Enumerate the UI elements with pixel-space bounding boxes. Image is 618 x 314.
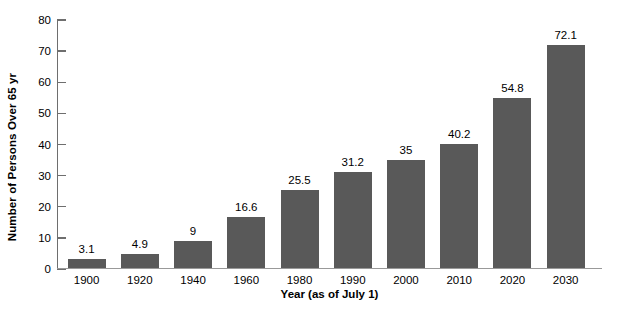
- y-axis-tick-label-wrap: 50: [8, 107, 51, 119]
- y-axis-tick-label-wrap: 60: [8, 76, 51, 88]
- bar-slot: 4.9: [113, 20, 166, 269]
- bar-slot: 3.1: [60, 20, 113, 269]
- bar-value-label: 31.2: [342, 156, 364, 168]
- bar-slot: 54.8: [486, 20, 539, 269]
- bar-slot: 25.5: [273, 20, 326, 269]
- bar[interactable]: [440, 144, 478, 269]
- y-axis-tick-label-wrap: 80: [8, 14, 51, 26]
- x-axis-line: [57, 268, 602, 269]
- bar-value-label: 16.6: [235, 201, 257, 213]
- bar-slot: 31.2: [326, 20, 379, 269]
- bar-value-label: 54.8: [501, 82, 523, 94]
- y-axis-tick-label: 40: [8, 139, 51, 151]
- y-axis-tick-label-wrap: 0: [8, 263, 51, 275]
- bar-slot: 16.6: [220, 20, 273, 269]
- bar-value-label: 72.1: [554, 29, 576, 41]
- x-axis-tick-label: 1990: [326, 273, 379, 287]
- bar-slot: 9: [166, 20, 219, 269]
- bar-value-label: 25.5: [288, 174, 310, 186]
- y-axis-tick-label: 80: [8, 14, 51, 26]
- plot-area: 3.14.9916.625.531.23540.254.872.1: [58, 20, 602, 269]
- y-axis-tick-label: 10: [8, 232, 51, 244]
- bar-slot: 72.1: [539, 20, 592, 269]
- y-axis-tick-label: 30: [8, 170, 51, 182]
- bar-value-label: 40.2: [448, 128, 470, 140]
- x-axis-tick-label: 2010: [433, 273, 486, 287]
- y-axis-tick-label: 70: [8, 45, 51, 57]
- bar[interactable]: [387, 160, 425, 269]
- bar-slot: 35: [379, 20, 432, 269]
- y-axis-tick-label: 20: [8, 201, 51, 213]
- bar-chart: Number of Persons Over 65 yr 01020304050…: [0, 0, 618, 314]
- x-axis-tick-label: 1960: [220, 273, 273, 287]
- y-axis-tick-label: 50: [8, 107, 51, 119]
- bar[interactable]: [121, 254, 159, 269]
- bar-value-label: 35: [400, 144, 413, 156]
- y-axis-tick-label-wrap: 30: [8, 170, 51, 182]
- x-axis-tick-label: 1980: [273, 273, 326, 287]
- y-axis-tick-label-wrap: 10: [8, 232, 51, 244]
- y-axis-tick-label-wrap: 40: [8, 139, 51, 151]
- bar-slot: 40.2: [433, 20, 486, 269]
- x-axis-tick-label: 1920: [113, 273, 166, 287]
- x-axis-tick-label: 1900: [60, 273, 113, 287]
- y-axis-tick-label: 0: [8, 263, 51, 275]
- bar[interactable]: [281, 190, 319, 269]
- bar[interactable]: [227, 217, 265, 269]
- x-axis-tick-label: 2030: [539, 273, 592, 287]
- bar[interactable]: [547, 45, 585, 269]
- bar[interactable]: [493, 98, 531, 269]
- bar[interactable]: [174, 241, 212, 269]
- bar-value-label: 3.1: [79, 243, 95, 255]
- x-axis-tick-label: 2020: [486, 273, 539, 287]
- bar[interactable]: [334, 172, 372, 269]
- y-axis-tick-label-wrap: 20: [8, 201, 51, 213]
- bar-value-label: 9: [190, 225, 196, 237]
- bar-value-label: 4.9: [132, 238, 148, 250]
- y-axis-tick-label: 60: [8, 76, 51, 88]
- x-axis-title: Year (as of July 1): [57, 288, 602, 300]
- y-axis-tick-label-wrap: 70: [8, 45, 51, 57]
- x-axis-tick-label: 1940: [166, 273, 219, 287]
- x-axis-tick-label: 2000: [379, 273, 432, 287]
